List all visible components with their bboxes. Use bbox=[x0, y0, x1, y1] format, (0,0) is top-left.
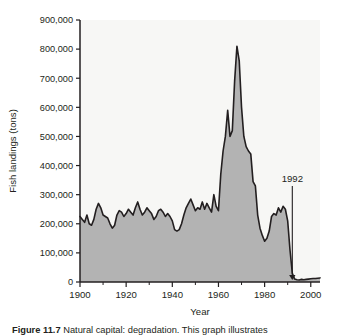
y-tick-label: 100,000 bbox=[40, 248, 73, 258]
y-tick-label: 600,000 bbox=[40, 103, 73, 113]
caption-label: Figure 11.7 bbox=[12, 325, 61, 335]
annotation-label: 1992 bbox=[282, 173, 303, 184]
y-tick-label: 400,000 bbox=[40, 161, 73, 171]
x-tick-label: 1900 bbox=[69, 289, 90, 300]
y-tick-label: 900,000 bbox=[40, 15, 73, 25]
x-tick-label: 1960 bbox=[208, 289, 229, 300]
x-tick-label: 1980 bbox=[254, 289, 275, 300]
caption-body: Natural capital: degradation. This graph… bbox=[61, 325, 268, 335]
x-axis-title: Year bbox=[190, 306, 210, 317]
y-tick-label: 300,000 bbox=[40, 190, 73, 200]
y-tick-label: 500,000 bbox=[40, 132, 73, 142]
figure-container: 0100,000200,000300,000400,000500,000600,… bbox=[0, 0, 340, 336]
y-axis-title: Fish landings (tons) bbox=[7, 109, 18, 193]
y-tick-label: 700,000 bbox=[40, 74, 73, 84]
y-axis-ticks: 0100,000200,000300,000400,000500,000600,… bbox=[40, 15, 80, 287]
y-tick-label: 800,000 bbox=[40, 44, 73, 54]
fish-landings-area-chart: 0100,000200,000300,000400,000500,000600,… bbox=[0, 0, 340, 336]
x-tick-label: 1940 bbox=[162, 289, 183, 300]
figure-caption: Figure 11.7 Natural capital: degradation… bbox=[12, 324, 332, 336]
x-axis-ticks: 190019201940196019802000 bbox=[69, 282, 321, 300]
x-tick-label: 1920 bbox=[115, 289, 136, 300]
x-tick-label: 2000 bbox=[300, 289, 321, 300]
y-tick-label: 200,000 bbox=[40, 219, 73, 229]
y-tick-label: 0 bbox=[68, 277, 73, 287]
